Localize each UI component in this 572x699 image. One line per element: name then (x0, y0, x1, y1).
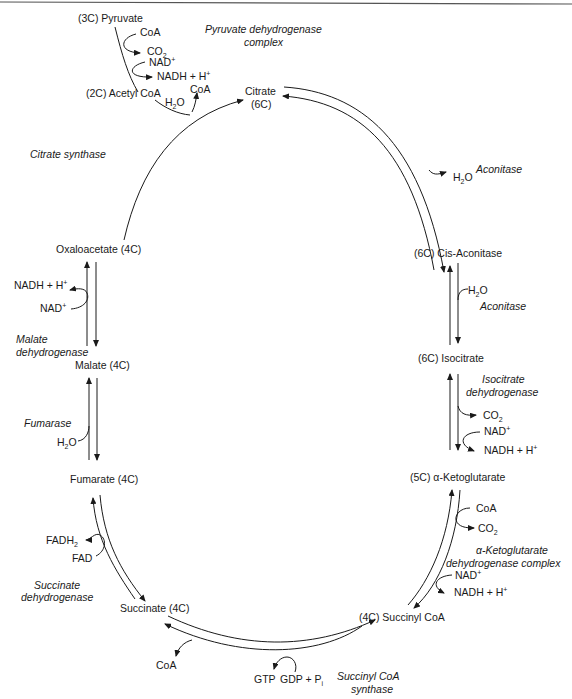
h2o-label: H2O (453, 171, 473, 185)
fumarase-label: Fumarase (24, 417, 71, 429)
coa-label: CoA (476, 502, 496, 514)
succinate-dh-label: Succinate (34, 579, 80, 591)
fad-label: FAD (72, 552, 93, 564)
citrate-label: Citrate (245, 85, 276, 97)
malate-dh-label: Malate (16, 333, 48, 345)
coa-release-arrow (192, 93, 197, 112)
h2o-uptake (458, 289, 468, 300)
succinyl-coa-synthase-label: Succinyl CoA (337, 670, 399, 682)
nad-label: NAD+ (40, 302, 66, 314)
gtp-formation-arrow (274, 657, 296, 672)
oxaloacetate-label: Oxaloacetate (4C) (56, 243, 141, 255)
h2o-release-arrow (429, 170, 446, 174)
citrate-synthase-step: H2O CoA Citrate synthase (30, 83, 243, 240)
fumarate-to-succinate-arc (100, 495, 145, 601)
isocitrate-dh-label-2: dehydrogenase (466, 386, 539, 398)
nadh-label: NADH + H+ (484, 444, 537, 456)
succinylcoa-to-succinate-arc (165, 624, 362, 650)
aconitase-step-1: H2O Aconitase (283, 87, 522, 272)
gtp-label: GTP (254, 673, 276, 685)
citrate-carbon-label: (6C) (251, 98, 271, 110)
page-top-rule (0, 2, 572, 4)
oaa-to-citrate-arc (124, 100, 243, 240)
fadh2-label: FADH2 (46, 534, 78, 548)
nadh-label: NADH + H+ (14, 279, 67, 291)
nadh-label: NADH + H+ (454, 586, 507, 598)
h2o-label: H2O (468, 284, 488, 298)
h2o-label: H2O (165, 96, 185, 110)
co2-release-arrow (456, 508, 474, 528)
co2-release-arrow (458, 406, 476, 415)
nadh-label: NADH + H+ (157, 70, 210, 82)
cisaconitase-to-citrate-arc (283, 96, 434, 270)
cis-aconitase-label: (6C) Cis-Aconitase (414, 247, 502, 259)
h2o-label: H2O (57, 436, 77, 450)
malate-dh-step: NADH + H+ NAD+ Malate dehydrogenase (14, 262, 96, 358)
fumarate-label: Fumarate (4C) (70, 473, 138, 485)
acetyl-coa-label: (2C) Acetyl CoA (86, 87, 161, 99)
coa-in-label: CoA (140, 26, 160, 38)
nadh-release-arrow (436, 575, 452, 593)
succinate-dh-step: FADH2 FAD Succinate dehydrogenase (21, 495, 145, 603)
succinate-to-fumarate-arc (93, 498, 135, 599)
succinyl-coa-synthase-step: CoA GTP GDP + Pi Succinyl CoA synthase (156, 616, 399, 695)
succinylcoa-to-akg-arc (408, 490, 452, 605)
h2o-uptake (78, 426, 89, 441)
coa-release-arrow (176, 640, 192, 656)
fumarase-step: H2O Fumarase (24, 378, 97, 460)
alpha-ketoglutarate-label: (5C) α-Ketoglutarate (410, 471, 506, 483)
succinate-label: Succinate (4C) (120, 602, 189, 614)
succinate-dh-label-2: dehydrogenase (21, 591, 94, 603)
succinyl-coa-synthase-label-2: synthase (351, 683, 393, 695)
citrate-synthase-label: Citrate synthase (30, 148, 106, 160)
aconitase-label: Aconitase (475, 163, 522, 175)
coa-out-label: CoA (190, 83, 210, 95)
isocitrate-dh-label: Isocitrate (482, 373, 525, 385)
pyruvate-arrow (115, 27, 138, 92)
pdh-enzyme-label-2: complex (244, 36, 284, 48)
aconitase-label: Aconitase (479, 300, 526, 312)
nad-label: NAD+ (484, 425, 510, 437)
nadh-release-arrow (463, 432, 480, 451)
nadh-formation-arrow (70, 289, 88, 309)
co2-release-arrow (124, 34, 140, 53)
pdh-enzyme-label: Pyruvate dehydrogenase (205, 23, 322, 35)
citrate-to-cisaconitase-arc (284, 87, 444, 272)
co2-label: CO2 (483, 409, 503, 423)
akg-dh-step: CoA CO2 α-Ketoglutarate dehydrogenase co… (408, 490, 561, 608)
akg-dh-label-2: dehydrogenase complex (446, 557, 561, 569)
gdp-label: GDP + Pi (280, 673, 324, 687)
isocitrate-dh-step: Isocitrate dehydrogenase CO2 NAD+ NADH +… (450, 373, 539, 456)
malate-label: Malate (4C) (75, 359, 130, 371)
pyruvate-label: (3C) Pyruvate (78, 12, 143, 24)
nad-label: NAD+ (149, 56, 175, 68)
nad-label: NAD+ (455, 569, 481, 581)
krebs-cycle-diagram: (3C) Pyruvate CoA CO2 NAD+ NADH + H+ Pyr… (0, 0, 572, 699)
malate-dh-label-2: dehydrogenase (16, 346, 89, 358)
akg-dh-label: α-Ketoglutarate (476, 544, 548, 556)
aconitase-step-2: H2O Aconitase (450, 263, 526, 345)
co2-label: CO2 (478, 522, 498, 536)
isocitrate-label: (6C) Isocitrate (418, 352, 484, 364)
coa-label: CoA (156, 659, 176, 671)
